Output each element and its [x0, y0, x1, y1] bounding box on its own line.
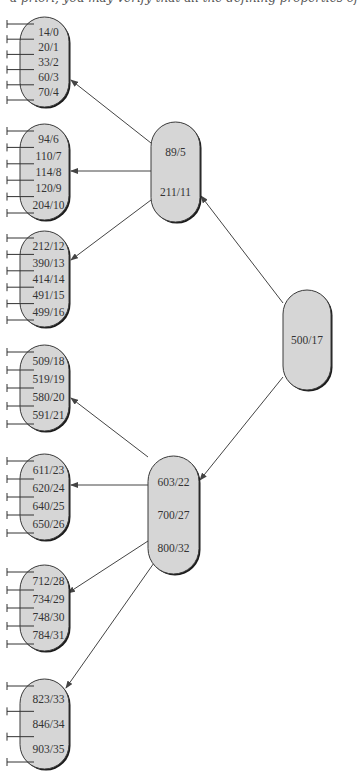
leaf-key-label: 114/8	[36, 166, 62, 178]
internal-key-label: 700/27	[158, 509, 190, 521]
edge-arrow-internal-1-to-leaf-3	[71, 200, 151, 260]
internal-key-label: 603/22	[158, 476, 190, 488]
leaf-key-label: 784/31	[33, 629, 65, 641]
node-body	[151, 122, 200, 222]
leaf-key-label: 60/3	[38, 71, 59, 83]
edge-arrow-internal-2-to-leaf-6	[68, 541, 148, 593]
leaf-key-label: 823/33	[33, 693, 65, 705]
leaf-key-label: 14/0	[38, 26, 59, 38]
leaf-key-label: 580/20	[33, 391, 65, 403]
edge-arrow-internal-2-to-leaf-7	[66, 553, 161, 688]
leaf-key-label: 20/1	[38, 41, 59, 53]
edge-arrow-internal-2-to-leaf-4	[71, 398, 148, 457]
leaf-key-label: 491/15	[33, 289, 65, 301]
leaf-key-label: 70/4	[38, 86, 59, 98]
leaf-node: 823/33846/34903/35	[7, 679, 71, 771]
leaf-key-label: 903/35	[33, 743, 65, 755]
leaf-key-label: 94/6	[38, 133, 59, 145]
leaf-node: 212/12390/13414/14491/15499/16	[7, 231, 71, 329]
leaf-key-label: 620/24	[33, 482, 65, 494]
leaf-node: 712/28734/29748/30784/31	[7, 565, 71, 653]
leaf-key-label: 650/26	[33, 518, 65, 530]
leaf-key-label: 414/14	[33, 273, 65, 285]
internal-key-label: 211/11	[160, 186, 191, 198]
leaf-key-label: 33/2	[38, 56, 59, 68]
internal-key-label: 89/5	[165, 146, 186, 158]
leaf-key-label: 734/29	[33, 593, 65, 605]
leaf-key-label: 120/9	[35, 182, 61, 194]
leaf-key-label: 212/12	[33, 240, 65, 252]
leaf-key-label: 519/19	[33, 373, 65, 385]
root-key-label: 500/17	[291, 334, 323, 346]
leaf-key-label: 110/7	[36, 150, 62, 162]
leaf-key-label: 748/30	[33, 611, 65, 623]
internal-node: 603/22700/27800/32	[148, 456, 201, 576]
leaf-node: 14/020/133/260/370/4	[7, 17, 71, 109]
edge-arrow-internal-1-to-leaf-1	[71, 80, 151, 143]
root-node: 500/17	[283, 290, 333, 392]
leaf-key-label: 499/16	[33, 306, 65, 318]
nodes-layer: 500/1789/5211/11603/22700/27800/3214/020…	[7, 17, 333, 771]
leaf-key-label: 204/10	[33, 199, 65, 211]
internal-node: 89/5211/11	[151, 122, 202, 224]
edge-arrow-root-to-internal-2	[200, 377, 283, 480]
internal-key-label: 800/32	[158, 542, 190, 554]
leaf-node: 509/18519/19580/20591/21	[7, 345, 71, 433]
leaf-key-label: 712/28	[33, 575, 65, 587]
leaf-key-label: 846/34	[33, 718, 65, 730]
leaf-key-label: 640/25	[33, 500, 65, 512]
leaf-key-label: 591/21	[33, 409, 65, 421]
leaf-key-label: 509/18	[33, 355, 65, 367]
leaf-key-label: 611/23	[33, 464, 65, 476]
leaf-node: 611/23620/24640/25650/26	[7, 454, 71, 542]
edge-arrow-root-to-internal-1	[201, 196, 283, 303]
leaf-node: 94/6110/7114/8120/9204/10	[7, 124, 71, 222]
leaf-key-label: 390/13	[33, 257, 65, 269]
